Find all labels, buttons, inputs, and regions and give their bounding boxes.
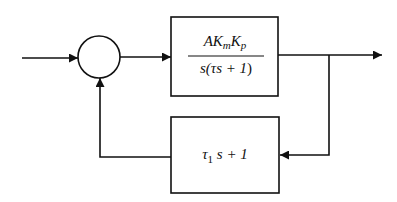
svg-text:s(τs + 1): s(τs + 1)	[200, 60, 252, 77]
block-diagram: AKmKp s(τs + 1) τ1 s + 1	[0, 0, 397, 202]
num-K2-sub: p	[240, 39, 247, 51]
feedback-transfer-block: τ1 s + 1	[171, 117, 279, 193]
svg-text:τ1 s + 1: τ1 s + 1	[202, 146, 248, 165]
forward-transfer-block: AKmKp s(τs + 1)	[171, 17, 278, 96]
feedback-branch-line	[280, 55, 329, 155]
summing-junction	[78, 36, 120, 78]
fb-rest: s + 1	[213, 146, 248, 162]
num-K1-sub: m	[223, 39, 231, 51]
svg-text:AKmKp: AKmKp	[203, 33, 247, 51]
den-mid: s + 1	[216, 60, 247, 76]
den-post: )	[247, 60, 252, 77]
feedback-return-line	[100, 78, 171, 157]
